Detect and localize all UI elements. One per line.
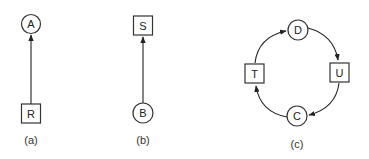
caption-c: (c) bbox=[291, 138, 304, 150]
node-a: A bbox=[22, 15, 41, 34]
node-c: C bbox=[287, 106, 307, 126]
node-label: U bbox=[336, 67, 344, 79]
node-label: A bbox=[27, 18, 35, 30]
edge-c-to-t bbox=[256, 86, 287, 117]
node-b: B bbox=[133, 103, 153, 123]
node-label: D bbox=[294, 24, 302, 36]
caption-a: (a) bbox=[24, 134, 37, 146]
diagram-canvas: A R (a) S B (b) D bbox=[0, 0, 369, 159]
node-s: S bbox=[134, 16, 153, 35]
edge-u-to-c bbox=[309, 83, 339, 115]
caption-b: (b) bbox=[136, 134, 149, 146]
node-label: S bbox=[139, 20, 146, 32]
node-label: C bbox=[293, 110, 301, 122]
node-label: R bbox=[27, 108, 35, 120]
node-label: T bbox=[251, 68, 258, 80]
node-t: T bbox=[245, 64, 264, 83]
node-label: B bbox=[139, 107, 146, 119]
node-r: R bbox=[22, 104, 41, 123]
node-d: D bbox=[288, 20, 308, 40]
node-u: U bbox=[330, 63, 349, 82]
edge-d-to-u bbox=[308, 28, 338, 60]
panel-c: D U C T (c) bbox=[245, 20, 349, 150]
edge-t-to-d bbox=[255, 31, 286, 63]
panel-b: S B (b) bbox=[133, 16, 153, 146]
panel-a: A R (a) bbox=[22, 15, 41, 147]
